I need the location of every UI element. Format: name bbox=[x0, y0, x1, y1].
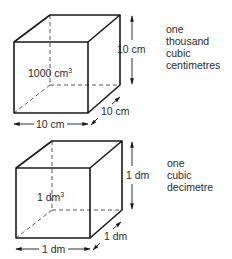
height-dimension: 10 cm bbox=[117, 16, 146, 84]
width-dimension: 10 cm bbox=[14, 118, 88, 130]
visible-edges bbox=[14, 15, 120, 113]
visible-edges bbox=[16, 141, 122, 238]
volume-diagram: 1000 cm3 10 cm 10 cm 10 cm one thousand … bbox=[0, 0, 232, 259]
description: one thousand cubic centimetres bbox=[166, 23, 220, 71]
cube-decimetre: 1 dm3 1 dm 1 dm 1 dm one cubic decimetre bbox=[16, 141, 213, 255]
volume-label: 1000 cm3 bbox=[28, 67, 72, 79]
height-dimension: 1 dm bbox=[126, 142, 150, 209]
width-label: 1 dm bbox=[42, 243, 66, 255]
width-dimension: 1 dm bbox=[16, 243, 90, 255]
cube-centimetres: 1000 cm3 10 cm 10 cm 10 cm one thousand … bbox=[14, 15, 220, 130]
volume-label: 1 dm3 bbox=[37, 191, 64, 203]
width-label: 10 cm bbox=[36, 118, 65, 130]
depth-dimension: 1 dm bbox=[93, 222, 128, 250]
depth-label: 10 cm bbox=[101, 105, 130, 117]
depth-dimension: 10 cm bbox=[91, 97, 130, 125]
description: one cubic decimetre bbox=[167, 157, 213, 193]
depth-label: 1 dm bbox=[104, 230, 128, 242]
height-label: 1 dm bbox=[126, 169, 150, 181]
height-label: 10 cm bbox=[117, 43, 146, 55]
